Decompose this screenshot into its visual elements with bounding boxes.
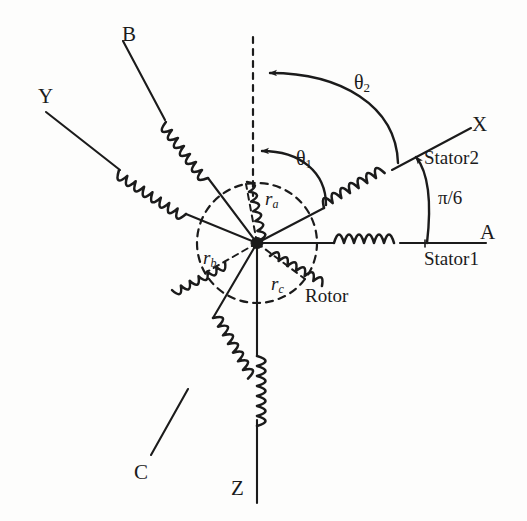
stator2-phase-x-axis: [257, 128, 471, 243]
machine-winding-diagram: B Y X Stator2 π/6 A Stator1 Rotor C Z θ2…: [0, 0, 527, 521]
stator2-phase-y-axis: [46, 112, 257, 243]
stator2-label: Stator2: [424, 148, 479, 167]
theta2-label: θ2: [354, 72, 370, 94]
rotor-center-hub: [251, 238, 263, 249]
pi-over-six-arc: [416, 157, 429, 243]
stator2-phase-x-coil: [320, 166, 385, 208]
stator1-phase-b-coil: [159, 122, 208, 183]
theta2-symbol: θ: [354, 71, 364, 93]
stator1-phase-a-coil: [334, 235, 394, 244]
axis-label-y: Y: [38, 86, 53, 107]
ra-subscript: a: [272, 197, 278, 211]
stator2-phase-y-coil: [114, 170, 186, 221]
rc-subscript: c: [278, 282, 283, 296]
stator2-phase-z-coil: [257, 356, 266, 426]
axis-label-a: A: [480, 222, 495, 243]
axis-label-z: Z: [231, 478, 244, 499]
stator1-phase-c-axis: [151, 243, 257, 455]
theta2-arc: [270, 73, 398, 163]
rotor-winding-label-ra: ra: [265, 189, 278, 210]
stator1-phase-b-axis: [123, 41, 257, 243]
theta2-subscript: 2: [364, 80, 371, 95]
rotor-winding-label-rb: rb: [203, 248, 216, 269]
axis-label-x: X: [472, 114, 487, 135]
rb-subscript: b: [210, 256, 216, 270]
theta1-label: θ1: [296, 148, 312, 170]
axis-label-b: B: [122, 24, 136, 45]
theta1-subscript: 1: [306, 156, 313, 171]
rotor-coil-ra: [247, 181, 266, 241]
stator1-phase-c-coil: [213, 314, 255, 379]
rotor-label: Rotor: [305, 286, 348, 305]
axis-label-c: C: [134, 462, 148, 483]
rotor-winding-label-rc: rc: [271, 274, 284, 295]
pi-over-six-label: π/6: [438, 188, 462, 207]
stator1-label: Stator1: [424, 249, 479, 268]
theta1-symbol: θ: [296, 147, 306, 169]
